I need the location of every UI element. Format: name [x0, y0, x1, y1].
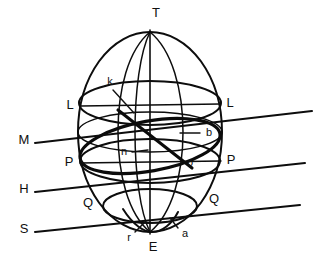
label-right-Q: Q — [209, 191, 219, 206]
label-bottom-pole: E — [149, 239, 158, 254]
label-point-b: b — [206, 126, 212, 138]
label-line-M: M — [19, 132, 30, 147]
label-left-Q: Q — [83, 195, 93, 210]
label-point-a: a — [182, 227, 189, 239]
label-left-L: L — [66, 97, 73, 112]
meridian-right — [150, 32, 183, 232]
chord-L — [81, 104, 220, 106]
label-line-H: H — [19, 181, 28, 196]
label-top-pole: T — [152, 5, 160, 20]
label-point-n: n — [121, 145, 127, 157]
chord-P — [80, 161, 221, 163]
leader-k — [113, 90, 134, 113]
label-point-r: r — [127, 231, 131, 243]
label-line-S: S — [20, 221, 29, 236]
label-left-P: P — [65, 154, 74, 169]
label-right-L: L — [226, 95, 233, 110]
label-right-P: P — [227, 152, 236, 167]
label-point-o: o — [187, 156, 193, 168]
spheroid-diagram: T E L L P P Q Q M H S k n o b r a — [0, 0, 332, 266]
section-line-M — [35, 111, 312, 143]
label-point-k: k — [107, 75, 113, 87]
